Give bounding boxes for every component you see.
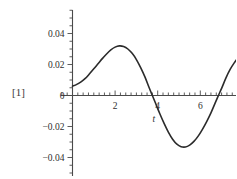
chart-svg: 24680.040.020−0.02−0.04 t — [0, 0, 236, 179]
y-tick-label: 0 — [60, 91, 65, 101]
y-tick-label: 0.04 — [48, 29, 65, 39]
chart-plot-area[interactable]: 24680.040.020−0.02−0.04 t — [0, 0, 236, 179]
x-axis-label: t — [153, 114, 156, 124]
plot-output-container: [1] 24680.040.020−0.02−0.04 t — [0, 0, 236, 179]
x-tick-label: 2 — [113, 101, 118, 111]
x-tick-label: 6 — [198, 101, 203, 111]
y-tick-label: −0.02 — [43, 122, 65, 132]
y-tick-label: −0.04 — [43, 153, 65, 163]
tick-marks-group — [62, 10, 236, 173]
data-curve — [73, 46, 237, 147]
y-tick-label: 0.02 — [48, 60, 65, 70]
axes-group — [61, 10, 236, 176]
